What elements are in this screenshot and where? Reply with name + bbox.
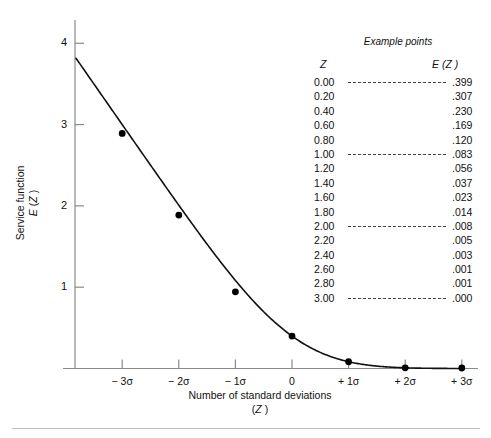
table-leader-line: [348, 82, 446, 83]
table-cell-z: 1.40: [314, 176, 344, 190]
table-cell-ez: .001: [452, 262, 482, 276]
table-row: 0.80.120: [314, 133, 482, 147]
table-cell-z: 2.00: [314, 219, 344, 233]
table-row: 2.20.005: [314, 233, 482, 247]
table-header-ez: E (Z ): [432, 58, 458, 70]
table-row: 0.00.399: [314, 75, 482, 89]
table-row: 3.00.000: [314, 291, 482, 305]
table-cell-ez: .037: [452, 176, 482, 190]
table-cell-ez: .005: [452, 233, 482, 247]
table-cell-z: 0.40: [314, 104, 344, 118]
data-point-marker: [402, 364, 409, 371]
table-header-ez-e: E: [432, 58, 439, 70]
table-header-ez-paren-close: ): [452, 58, 458, 70]
y-axis-title: Service function E (Z ): [14, 143, 40, 263]
table-cell-z: 2.40: [314, 248, 344, 262]
x-axis-title: Number of standard deviations (Z ): [140, 388, 380, 416]
table-cell-z: 0.20: [314, 89, 344, 103]
table-row: 2.40.003: [314, 248, 482, 262]
table-leader-line: [348, 226, 446, 227]
x-axis-title-line1: Number of standard deviations: [189, 389, 332, 401]
table-cell-ez: .169: [452, 118, 482, 132]
table-row: 1.00.083: [314, 147, 482, 161]
table-row: 1.60.023: [314, 190, 482, 204]
data-point-marker: [119, 130, 126, 137]
table-cell-ez: .023: [452, 190, 482, 204]
table-cell-ez: .056: [452, 161, 482, 175]
table-cell-ez: .083: [452, 147, 482, 161]
table-cell-z: 1.00: [314, 147, 344, 161]
y-tick-label: 3: [47, 119, 67, 130]
table-header-z: Z: [320, 58, 326, 70]
y-tick-marks: [75, 43, 84, 287]
data-point-marker: [175, 212, 182, 219]
table-cell-ez: .230: [452, 104, 482, 118]
x-tick-label: + 2σ: [382, 376, 428, 387]
table-row: 0.60.169: [314, 118, 482, 132]
table-row: 2.80.001: [314, 276, 482, 290]
x-tick-label: 0: [269, 376, 315, 387]
chart-figure: 1234 − 3σ− 2σ− 1σ0+ 1σ+ 2σ+ 3σ Service f…: [0, 0, 491, 438]
table-cell-z: 1.80: [314, 205, 344, 219]
table-cell-z: 3.00: [314, 291, 344, 305]
table-row: 1.80.014: [314, 205, 482, 219]
x-tick-label: − 3σ: [99, 376, 145, 387]
table-cell-ez: .120: [452, 133, 482, 147]
y-tick-label: 1: [47, 281, 67, 292]
table-cell-z: 2.20: [314, 233, 344, 247]
table-cell-ez: .001: [452, 276, 482, 290]
table-cell-z: 2.60: [314, 262, 344, 276]
table-row: 1.20.056: [314, 161, 482, 175]
table-cell-ez: .008: [452, 219, 482, 233]
data-point-marker: [345, 358, 352, 365]
data-point-marker: [289, 333, 296, 340]
table-cell-z: 2.80: [314, 276, 344, 290]
table-cell-ez: .003: [452, 248, 482, 262]
table-cell-z: 1.60: [314, 190, 344, 204]
y-tick-label: 4: [47, 37, 67, 48]
x-tick-label: + 1σ: [326, 376, 372, 387]
table-cell-ez: .000: [452, 291, 482, 305]
table-cell-z: 1.20: [314, 161, 344, 175]
x-tick-marks: [122, 360, 462, 369]
table-row: 1.40.037: [314, 176, 482, 190]
x-tick-label: − 2σ: [156, 376, 202, 387]
y-axis-title-line2: E (Z ): [27, 143, 40, 263]
table-leader-line: [348, 298, 446, 299]
table-cell-z: 0.00: [314, 75, 344, 89]
example-points-title: Example points: [328, 36, 468, 47]
table-leader-line: [348, 154, 446, 155]
table-cell-ez: .399: [452, 75, 482, 89]
y-axis-title-paren-close: ): [27, 190, 39, 196]
table-row: 0.20.307: [314, 89, 482, 103]
table-cell-z: 0.60: [314, 118, 344, 132]
y-axis-title-paren-open: (: [27, 203, 39, 209]
table-cell-ez: .307: [452, 89, 482, 103]
x-axis-title-paren-close: ): [262, 403, 268, 415]
y-axis-title-e: E: [27, 209, 39, 216]
y-tick-label: 2: [47, 200, 67, 211]
table-row: 0.40.230: [314, 104, 482, 118]
table-row: 2.60.001: [314, 262, 482, 276]
table-row: 2.00.008: [314, 219, 482, 233]
x-axis-title-line2: (Z ): [140, 402, 380, 416]
y-axis-title-z: Z: [27, 196, 39, 202]
table-cell-z: 0.80: [314, 133, 344, 147]
example-points-table: 0.00.3990.20.3070.40.2300.60.1690.80.120…: [314, 75, 482, 305]
bottom-divider: [12, 428, 480, 429]
table-cell-ez: .014: [452, 205, 482, 219]
y-axis-title-line1: Service function: [14, 166, 26, 241]
x-tick-label: + 3σ: [439, 376, 485, 387]
data-point-marker: [458, 365, 465, 372]
x-tick-label: − 1σ: [212, 376, 258, 387]
data-point-marker: [232, 288, 239, 295]
